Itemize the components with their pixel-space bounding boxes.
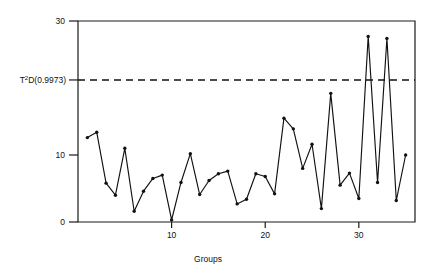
x-tick-label-20: 20 xyxy=(260,230,270,240)
data-point xyxy=(95,131,98,134)
data-point xyxy=(348,171,351,174)
data-point xyxy=(395,199,398,202)
y-axis-ticks xyxy=(69,21,78,222)
data-point xyxy=(245,198,248,201)
data-point xyxy=(292,127,295,130)
chart-canvas: 01030 T2D(0.9973) 102030 Groups xyxy=(0,0,430,274)
y-tick-label-0: 0 xyxy=(60,217,65,227)
data-point xyxy=(142,189,145,192)
data-point xyxy=(385,37,388,40)
data-point xyxy=(301,167,304,170)
control-limit-label: T2D(0.9973) xyxy=(20,75,67,85)
y-axis-tick-labels: 01030 xyxy=(56,16,66,227)
data-point xyxy=(329,92,332,95)
data-point xyxy=(217,172,220,175)
data-point xyxy=(104,181,107,184)
data-point xyxy=(338,183,341,186)
data-point xyxy=(114,194,117,197)
data-point xyxy=(366,35,369,38)
data-point xyxy=(151,177,154,180)
data-point xyxy=(161,173,164,176)
y-tick-label-10: 10 xyxy=(56,150,66,160)
data-point xyxy=(320,207,323,210)
x-tick-label-30: 30 xyxy=(354,230,364,240)
data-point xyxy=(376,181,379,184)
data-point xyxy=(123,147,126,150)
data-point xyxy=(264,175,267,178)
series-line-t2-statistic xyxy=(87,36,405,220)
data-point xyxy=(226,169,229,172)
y-tick-label-30: 30 xyxy=(56,16,66,26)
data-point xyxy=(310,143,313,146)
plot-frame xyxy=(78,21,415,222)
t2-control-chart: 01030 T2D(0.9973) 102030 Groups xyxy=(0,0,430,274)
data-point xyxy=(170,218,173,221)
x-axis-tick-labels: 102030 xyxy=(167,230,364,240)
control-limit-label-rest: D(0.9973) xyxy=(28,75,66,85)
x-tick-label-10: 10 xyxy=(167,230,177,240)
data-point xyxy=(86,136,89,139)
data-point xyxy=(189,152,192,155)
data-point xyxy=(132,210,135,213)
x-axis-ticks xyxy=(172,222,359,228)
data-point xyxy=(357,197,360,200)
data-point xyxy=(254,172,257,175)
data-point xyxy=(273,192,276,195)
data-point xyxy=(282,116,285,119)
data-point xyxy=(207,179,210,182)
data-point xyxy=(404,153,407,156)
data-point xyxy=(235,202,238,205)
x-axis-title: Groups xyxy=(194,254,222,264)
data-point xyxy=(179,181,182,184)
data-point xyxy=(198,193,201,196)
